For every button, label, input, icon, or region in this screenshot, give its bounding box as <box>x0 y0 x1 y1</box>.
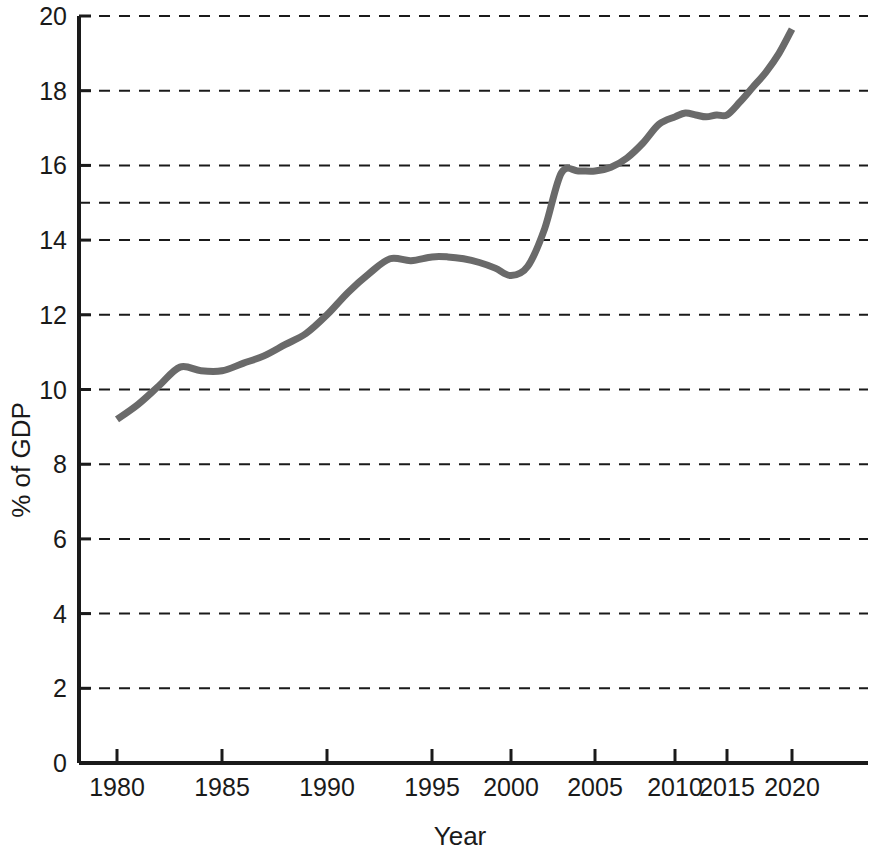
line-chart-plot: 198019851990199520002005201020152020 024… <box>0 0 874 859</box>
x-tick-label: 2000 <box>483 773 539 801</box>
chart-figure: 198019851990199520002005201020152020 024… <box>0 0 874 859</box>
y-tick-label: 16 <box>39 151 67 179</box>
y-tick-label: 6 <box>53 525 67 553</box>
x-tick-label: 1990 <box>299 773 355 801</box>
y-tick-label: 20 <box>39 2 67 30</box>
y-tick-label: 18 <box>39 77 67 105</box>
y-tick-label: 12 <box>39 301 67 329</box>
x-tick-label: 1995 <box>404 773 460 801</box>
x-tick-label: 2005 <box>567 773 623 801</box>
y-tick-label: 8 <box>53 450 67 478</box>
x-tick-label: 2010 <box>647 773 703 801</box>
x-tick-label: 1980 <box>89 773 145 801</box>
y-tick-labels-group: 02468101214161820 <box>39 2 67 777</box>
gridlines-group <box>79 16 868 688</box>
y-tick-label: 4 <box>53 600 67 628</box>
y-tick-label: 10 <box>39 376 67 404</box>
x-tick-marks-group <box>117 749 792 763</box>
y-axis-title: % of GDP <box>6 402 36 518</box>
x-axis-title: Year <box>434 821 487 851</box>
x-tick-label: 1985 <box>194 773 250 801</box>
x-tick-label: 2020 <box>764 773 820 801</box>
x-tick-label: 2015 <box>699 773 755 801</box>
y-tick-label: 14 <box>39 226 67 254</box>
y-tick-label: 2 <box>53 674 67 702</box>
y-tick-label: 0 <box>53 749 67 777</box>
x-tick-labels-group: 198019851990199520002005201020152020 <box>89 773 820 801</box>
data-series-group <box>117 29 792 419</box>
series-line <box>117 29 792 419</box>
